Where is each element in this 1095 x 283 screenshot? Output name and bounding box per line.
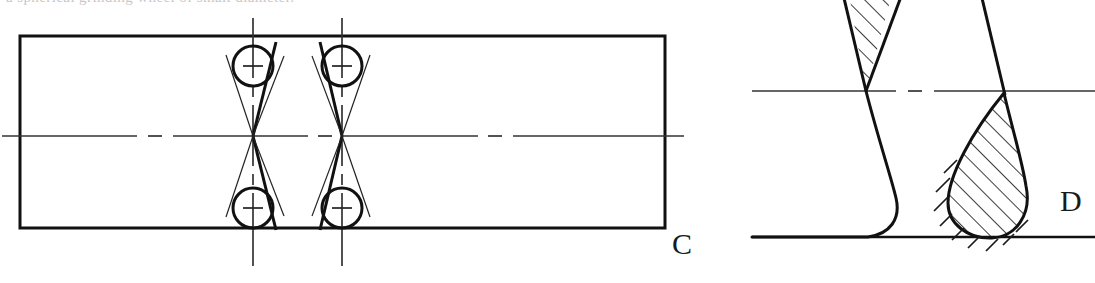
groove-flank-upper-right-1 [253, 42, 276, 136]
groove-flank-lower-left-2 [320, 136, 342, 230]
teardrop-upper-flank [981, 0, 1005, 95]
teardrop-hatching [930, 80, 1050, 250]
drawing-canvas [0, 0, 1095, 283]
groove-flank-upper-left-2 [320, 42, 342, 136]
figure-label-c: C [672, 229, 692, 259]
construction-tangent-lower-left-1 [226, 136, 253, 217]
figure-label-d: D [1060, 186, 1082, 216]
left-groove-runout-curve [752, 91, 897, 237]
groove-flank-lower-right-1 [253, 136, 276, 230]
technical-drawing-sheet [0, 0, 1095, 283]
construction-tangent-upper-right-2 [342, 55, 370, 136]
construction-tangent-upper-left-1 [226, 55, 253, 136]
figure-c-group [2, 18, 684, 266]
right-groove-teardrop [930, 0, 1050, 251]
construction-tangent-lower-right-2 [342, 136, 370, 217]
figure-d-group [752, 0, 1095, 251]
left-groove-hatching [820, 0, 930, 110]
left-groove-profile [752, 0, 930, 237]
